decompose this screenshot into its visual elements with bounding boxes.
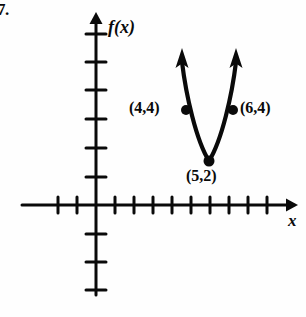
- x-axis-label: x: [288, 212, 297, 229]
- x-axis-arrowhead: [286, 199, 298, 212]
- graph-canvas: [0, 0, 306, 317]
- point-marker-5-2: [204, 156, 215, 167]
- axes-group: [22, 12, 298, 295]
- parabola-figure: 7. f(x) x (4,4) (5,2) (6,4): [0, 0, 306, 317]
- point-label-4-4: (4,4): [129, 100, 160, 116]
- y-axis-label: f(x): [108, 18, 135, 36]
- point-marker-6-4: [228, 105, 238, 115]
- y-axis-arrowhead: [90, 12, 103, 24]
- point-label-5-2: (5,2): [186, 168, 217, 184]
- parabola-curve-group: [176, 48, 243, 161]
- point-label-6-4: (6,4): [240, 100, 271, 116]
- point-marker-4-4: [181, 105, 191, 115]
- problem-number: 7.: [0, 1, 9, 18]
